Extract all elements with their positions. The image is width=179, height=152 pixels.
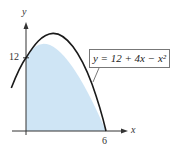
y-tick-label-12: 12 xyxy=(9,51,19,62)
y-axis-arrow-icon xyxy=(24,22,29,29)
y-axis-label: y xyxy=(22,6,26,17)
x-tick-label-6: 6 xyxy=(102,135,107,146)
equation-leader-line xyxy=(93,68,99,82)
x-axis-label: x xyxy=(131,124,135,135)
equation-label: y = 12 + 4x − x² xyxy=(89,49,170,68)
chart-canvas xyxy=(0,0,179,152)
x-axis-arrow-icon xyxy=(121,129,128,134)
